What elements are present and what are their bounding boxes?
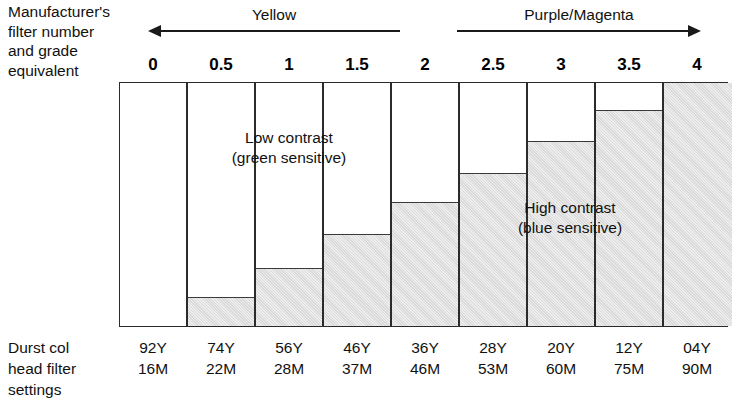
footer-label-line-1: Durst col	[8, 337, 124, 358]
durst-cell-5: 28Y 53M	[459, 337, 527, 379]
low-contrast-annotation: Low contrast (green sensitive)	[187, 128, 391, 168]
durst-yellow-value: 74Y	[187, 337, 255, 358]
bar-fill	[324, 234, 392, 326]
header-label-line-1: Manufacturer's	[8, 2, 124, 22]
durst-magenta-value: 90M	[663, 358, 731, 379]
durst-yellow-value: 36Y	[391, 337, 459, 358]
durst-cell-8: 04Y 90M	[663, 337, 731, 379]
durst-magenta-value: 28M	[255, 358, 323, 379]
purple-magenta-band-label: Purple/Magenta	[457, 6, 701, 23]
arrow-shaft	[457, 30, 689, 32]
arrow-shaft	[160, 30, 400, 32]
grade-label-2: 2	[391, 55, 459, 75]
durst-magenta-value: 46M	[391, 358, 459, 379]
header-label-block: Manufacturer's filter number and grade e…	[8, 2, 124, 80]
durst-cell-7: 12Y 75M	[595, 337, 663, 379]
high-contrast-annotation: High contrast (blue sensitive)	[470, 198, 670, 238]
durst-magenta-value: 60M	[527, 358, 595, 379]
header-label-line-4: equivalent	[8, 61, 124, 81]
durst-magenta-value: 22M	[187, 358, 255, 379]
bar-column-0.5	[188, 83, 256, 326]
header-label-line-3: and grade	[8, 41, 124, 61]
bar-fill	[664, 83, 732, 326]
grade-label-3.5: 3.5	[595, 55, 663, 75]
grade-label-3: 3	[527, 55, 595, 75]
purple-magenta-band-arrow	[457, 24, 701, 38]
footer-label-block: Durst col head filter settings	[8, 337, 124, 400]
durst-magenta-value: 75M	[595, 358, 663, 379]
high-contrast-line-1: High contrast	[524, 199, 615, 216]
grade-label-4: 4	[663, 55, 731, 75]
bar-column-1.5	[324, 83, 392, 326]
durst-yellow-value: 20Y	[527, 337, 595, 358]
durst-cell-4: 36Y 46M	[391, 337, 459, 379]
durst-yellow-value: 12Y	[595, 337, 663, 358]
arrow-right-head-icon	[688, 25, 701, 37]
durst-cell-0: 92Y 16M	[119, 337, 187, 379]
yellow-band-label: Yellow	[148, 6, 400, 23]
yellow-band-arrow	[148, 24, 400, 38]
bar-column-4	[664, 83, 732, 326]
grade-label-1.5: 1.5	[323, 55, 391, 75]
grade-label-0.5: 0.5	[187, 55, 255, 75]
bar-column-1	[256, 83, 324, 326]
bar-column-2	[392, 83, 460, 326]
durst-yellow-value: 46Y	[323, 337, 391, 358]
durst-magenta-value: 53M	[459, 358, 527, 379]
durst-yellow-value: 28Y	[459, 337, 527, 358]
bar-fill	[188, 297, 256, 326]
grade-label-0: 0	[119, 55, 187, 75]
low-contrast-line-2: (green sensitive)	[187, 148, 391, 168]
durst-yellow-value: 92Y	[119, 337, 187, 358]
durst-cell-1: 74Y 22M	[187, 337, 255, 379]
footer-label-line-3: settings	[8, 379, 124, 400]
durst-magenta-value: 16M	[119, 358, 187, 379]
durst-cell-6: 20Y 60M	[527, 337, 595, 379]
bar-fill	[460, 173, 528, 326]
grade-number-row: 0 0.5 1 1.5 2 2.5 3 3.5 4	[119, 55, 728, 79]
high-contrast-line-2: (blue sensitive)	[470, 218, 670, 238]
bar-column-0	[120, 83, 188, 326]
durst-yellow-value: 56Y	[255, 337, 323, 358]
grade-label-2.5: 2.5	[459, 55, 527, 75]
durst-magenta-value: 37M	[323, 358, 391, 379]
footer-label-line-2: head filter	[8, 358, 124, 379]
header-label-line-2: filter number	[8, 22, 124, 42]
bar-fill	[256, 268, 324, 326]
low-contrast-line-1: Low contrast	[245, 129, 333, 146]
durst-yellow-value: 04Y	[663, 337, 731, 358]
grade-label-1: 1	[255, 55, 323, 75]
bar-fill	[392, 202, 460, 326]
durst-cell-3: 46Y 37M	[323, 337, 391, 379]
durst-cell-2: 56Y 28M	[255, 337, 323, 379]
